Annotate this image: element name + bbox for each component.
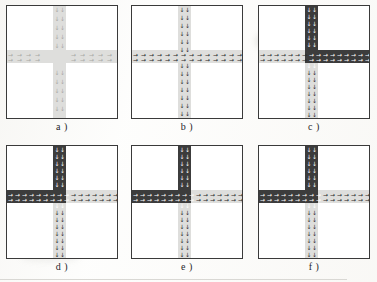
vehicle-arrow-s: ↓ [307,154,312,159]
vehicle-arrow-s: ↓ [180,245,185,250]
vehicle-arrow-s: ↓ [60,106,65,111]
vehicle-arrow-e: → [365,197,370,202]
vehicle-arrow-s: ↓ [180,154,185,159]
vehicle-arrow-s: ↓ [180,63,185,68]
vehicle-arrow-s: ↓ [185,71,190,76]
vehicle-arrow-s: ↓ [185,238,190,243]
vehicle-arrow-e: → [35,57,40,62]
vehicle-arrow-s: ↓ [307,98,312,103]
vehicle-arrow-s: ↓ [312,245,317,250]
vehicle-arrow-s: ↓ [307,217,312,222]
vehicle-arrow-s: ↓ [307,35,312,40]
vehicle-arrow-s: ↓ [312,63,317,68]
vehicle-arrow-s: ↓ [312,217,317,222]
vehicle-arrow-s: ↓ [180,87,185,92]
vehicle-arrow-s: ↓ [55,245,60,250]
vehicle-arrow-e: → [196,197,201,202]
vehicle-arrow-e: → [99,197,104,202]
vehicle-arrow-e: → [203,197,208,202]
vehicle-arrow-s: ↓ [60,217,65,222]
vehicle-arrow-s: ↓ [55,97,60,102]
vehicle-arrow-e: → [113,197,118,202]
vehicle-arrow-s: ↓ [180,39,185,44]
vehicle-arrow-s: ↓ [55,182,60,187]
vehicle-arrow-s: ↓ [55,43,60,48]
vehicle-arrow-s: ↓ [307,77,312,82]
vehicle-arrow-e: → [98,57,103,62]
vehicle-arrow-s: ↓ [312,91,317,96]
vehicle-arrow-s: ↓ [185,210,190,215]
vehicle-arrow-s: ↓ [312,7,317,12]
vehicle-arrow-s: ↓ [312,70,317,75]
vehicle-arrow-e: → [237,57,242,62]
vehicle-arrow-s: ↓ [55,161,60,166]
vehicle-arrow-s: ↓ [60,231,65,236]
vehicle-arrow-e: → [365,57,370,62]
vehicle-arrow-s: ↓ [307,238,312,243]
vehicle-arrow-s: ↓ [180,238,185,243]
vehicle-arrow-e: → [231,197,236,202]
panel-e-plot: →→→→→→→→→→→→→→→→→→→→→→→→→→→→→→→→↓↓↓↓↓↓↓↓… [131,145,243,259]
vehicle-arrow-e: → [71,197,76,202]
vehicle-arrow-s: ↓ [185,47,190,52]
vehicle-arrow-e: → [274,57,279,62]
vehicle-arrow-e: → [29,197,34,202]
vehicle-arrow-s: ↓ [185,95,190,100]
vehicle-arrow-e: → [168,197,173,202]
vehicle-arrow-s: ↓ [307,210,312,215]
panel-a-caption: a ) [6,121,118,132]
vehicle-arrow-s: ↓ [55,147,60,152]
vehicle-arrow-s: ↓ [60,154,65,159]
vehicle-arrow-s: ↓ [307,112,312,117]
vehicle-arrow-s: ↓ [312,203,317,208]
vehicle-arrow-e: → [36,197,41,202]
vehicle-arrow-s: ↓ [307,224,312,229]
panel-d: →→→→→→→→→→→→→→→→→→→→→→→→→→→→→→→→↓↓↓↓↓↓↓↓… [6,145,118,259]
vehicle-arrow-s: ↓ [185,63,190,68]
vehicle-arrow-s: ↓ [180,182,185,187]
vehicle-arrow-e: → [217,197,222,202]
vehicle-arrow-e: → [337,57,342,62]
vehicle-arrow-e: → [281,197,286,202]
vehicle-arrow-s: ↓ [312,210,317,215]
vehicle-arrow-e: → [210,197,215,202]
vehicle-arrow-s: ↓ [60,224,65,229]
vehicle-arrow-e: → [358,197,363,202]
vehicle-arrow-s: ↓ [185,31,190,36]
panel-b-caption: b ) [131,121,243,132]
vehicle-arrow-s: ↓ [60,70,65,75]
vehicle-arrow-e: → [161,197,166,202]
panel-d-plot: →→→→→→→→→→→→→→→→→→→→→→→→→→→→→→→→↓↓↓↓↓↓↓↓… [6,145,118,259]
vehicle-arrow-e: → [8,197,13,202]
panel-f-plot: →→→→→→→→→→→→→→→→→→→→→→→→→→→→→→→→↓↓↓↓↓↓↓↓… [258,145,370,259]
vehicle-arrow-s: ↓ [60,210,65,215]
vehicle-arrow-s: ↓ [60,175,65,180]
panel-f-caption: f ) [258,261,370,272]
vehicle-arrow-e: → [197,57,202,62]
panel-c-caption: c ) [258,121,370,132]
vehicle-arrow-s: ↓ [307,168,312,173]
vehicle-arrow-s: ↓ [55,34,60,39]
vehicle-arrow-s: ↓ [55,224,60,229]
figure-canvas: →→→→→→→→→→→→→→→→→→↓↓↓↓↓↓↓↓↓↓↓↓↓↓↓↓↓↓↓↓a … [0,0,377,282]
vehicle-arrow-s: ↓ [307,63,312,68]
vehicle-arrow-s: ↓ [60,203,65,208]
vehicle-arrow-e: → [221,57,226,62]
vehicle-arrow-s: ↓ [55,25,60,30]
vehicle-arrow-s: ↓ [312,238,317,243]
vehicle-arrow-e: → [224,197,229,202]
vehicle-arrow-s: ↓ [185,154,190,159]
vehicle-arrow-e: → [295,197,300,202]
vehicle-arrow-s: ↓ [307,14,312,19]
vehicle-arrow-s: ↓ [307,21,312,26]
vehicle-arrow-s: ↓ [60,252,65,257]
vehicle-arrow-s: ↓ [180,175,185,180]
vehicle-arrow-s: ↓ [180,79,185,84]
vehicle-arrow-e: → [323,57,328,62]
vehicle-arrow-s: ↓ [312,28,317,33]
vehicle-arrow-s: ↓ [55,175,60,180]
vehicle-arrow-e: → [89,57,94,62]
vehicle-arrow-e: → [281,57,286,62]
vehicle-arrow-e: → [17,57,22,62]
vehicle-arrow-s: ↓ [185,224,190,229]
